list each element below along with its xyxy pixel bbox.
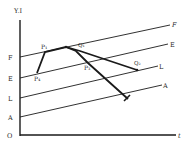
label-F-left: F [8, 54, 13, 62]
label-P1: P₁ [41, 43, 47, 50]
y-axis-label: Y.I [13, 7, 23, 15]
label-L-right: L [159, 63, 164, 71]
diagram-labels: Y.I O t F E L A F E L A P₁ P₄ Q₁ P₃ Q₂ [0, 0, 192, 151]
label-P3: P₃ [84, 64, 91, 71]
label-E-left: E [8, 75, 13, 83]
label-A-right: A [162, 82, 168, 90]
label-L-left: L [8, 95, 13, 103]
label-F-right: F [171, 21, 177, 29]
label-Q1: Q₁ [78, 42, 85, 48]
x-axis-label: t [178, 132, 181, 140]
label-Q2: Q₂ [134, 60, 141, 66]
label-A-left: A [7, 114, 13, 122]
label-E-right: E [170, 41, 175, 49]
origin-label: O [7, 132, 12, 140]
label-P4: P₄ [34, 75, 41, 82]
